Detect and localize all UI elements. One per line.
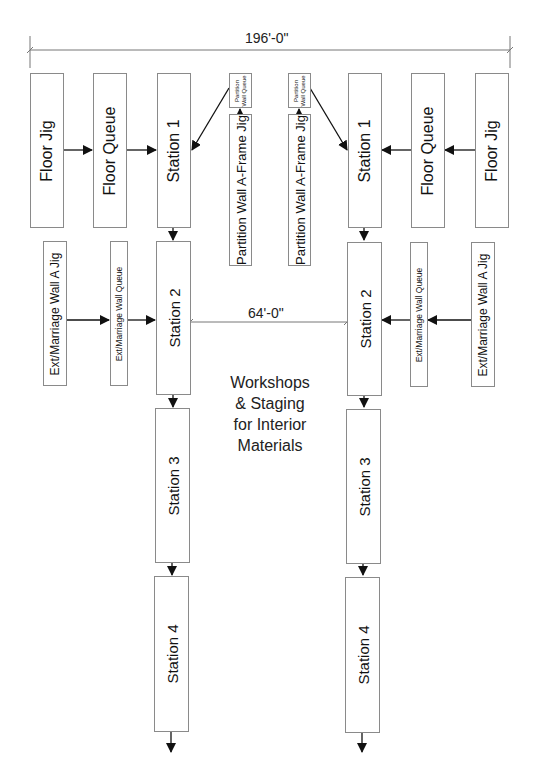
right-floor-queue-label: Floor Queue [419, 106, 437, 195]
left-partition-wall-queue-label: Partition Wall Queue [234, 75, 248, 107]
right-station-3: Station 3 [346, 409, 381, 564]
right-station-2: Station 2 [347, 242, 382, 396]
right-station-4-label: Station 4 [354, 625, 371, 684]
left-station-3-label: Station 3 [164, 456, 181, 515]
right-ext-wall-jig-label: Ext/Marriage Wall A Jig [476, 253, 490, 376]
right-station-1-label: Station 1 [356, 119, 374, 182]
left-floor-jig-label: Floor Jig [38, 120, 56, 181]
right-station-2-label: Station 2 [356, 289, 373, 348]
left-partition-wall-queue: Partition Wall Queue [229, 73, 252, 108]
left-station-3: Station 3 [155, 408, 190, 563]
workshops-staging-note: Workshops & Staging for Interior Materia… [210, 372, 330, 456]
right-partition-wall-queue: Partition Wall Queue [288, 73, 311, 108]
line-spacing-label: 64'-0" [248, 305, 284, 321]
right-ext-wall-queue-label: Ext/Marriage Wall Queue [414, 267, 424, 362]
left-floor-queue-label: Floor Queue [101, 106, 119, 195]
left-floor-queue: Floor Queue [93, 73, 127, 228]
left-partition-wall-jig: Partition Wall A-Frame Jig [229, 114, 252, 266]
right-partition-wall-queue-label: Partition Wall Queue [293, 75, 307, 107]
left-station-4-label: Station 4 [163, 624, 180, 683]
overall-width-label: 196'-0" [245, 30, 288, 46]
right-partition-wall-jig-label: Partition Wall A-Frame Jig [292, 115, 307, 265]
left-station-2-label: Station 2 [165, 288, 182, 347]
left-station-4: Station 4 [154, 576, 189, 732]
left-ext-wall-queue: Ext/Marriage Wall Queue [110, 241, 128, 386]
left-ext-wall-jig: Ext/Marriage Wall A Jig [43, 241, 67, 386]
left-station-1-label: Station 1 [165, 119, 183, 182]
note-line-2: & Staging [210, 393, 330, 414]
note-line-1: Workshops [210, 372, 330, 393]
left-partition-wall-jig-label: Partition Wall A-Frame Jig [233, 115, 248, 265]
note-line-3: for Interior [210, 414, 330, 435]
right-station-1: Station 1 [348, 73, 382, 228]
right-ext-wall-jig: Ext/Marriage Wall A Jig [471, 242, 495, 387]
left-ext-wall-jig-label: Ext/Marriage Wall A Jig [48, 252, 62, 375]
right-floor-jig-label: Floor Jig [483, 120, 501, 181]
left-station-1: Station 1 [157, 73, 191, 228]
left-floor-jig: Floor Jig [30, 73, 64, 228]
left-station-2: Station 2 [156, 241, 191, 395]
right-station-4: Station 4 [345, 577, 380, 733]
note-line-4: Materials [210, 435, 330, 456]
right-partition-wall-jig: Partition Wall A-Frame Jig [288, 114, 311, 266]
right-ext-wall-queue: Ext/Marriage Wall Queue [410, 242, 428, 387]
left-ext-wall-queue-label: Ext/Marriage Wall Queue [114, 266, 124, 361]
right-station-3-label: Station 3 [355, 457, 372, 516]
right-floor-queue: Floor Queue [411, 73, 445, 228]
right-floor-jig: Floor Jig [475, 73, 509, 228]
